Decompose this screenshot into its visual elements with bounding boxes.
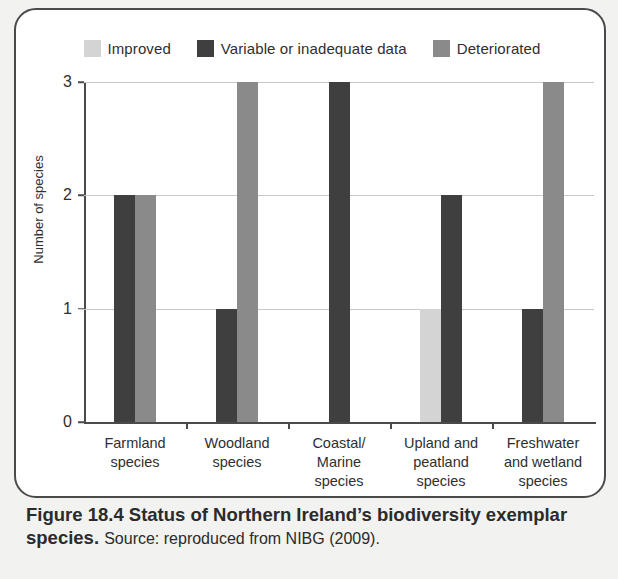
x-axis-label-line: Marine <box>288 453 390 472</box>
y-tick-label: 0 <box>50 413 72 431</box>
x-tick-mark <box>492 422 494 429</box>
y-tick-label: 1 <box>50 300 72 318</box>
bar <box>216 309 237 422</box>
figure-caption: Figure 18.4 Status of Northern Ireland’s… <box>26 503 604 550</box>
x-axis-label: Woodlandspecies <box>186 434 288 491</box>
bar <box>329 82 350 422</box>
x-tick-mark <box>288 422 290 429</box>
bar-group <box>186 82 288 422</box>
bar <box>543 82 564 422</box>
bar <box>135 195 156 422</box>
bar-group <box>288 82 390 422</box>
x-tick-mark <box>390 422 392 429</box>
x-axis-label-line: Woodland <box>186 434 288 453</box>
y-axis-title: Number of species <box>31 130 46 290</box>
plot-wrapper: Number of species 0123 FarmlandspeciesWo… <box>16 10 606 498</box>
x-axis-labels: FarmlandspeciesWoodlandspeciesCoastal/Ma… <box>84 434 594 491</box>
bar <box>420 309 441 422</box>
bar-group-bars <box>84 82 186 422</box>
x-axis-label-line: species <box>390 472 492 491</box>
x-axis-label-line: Freshwater <box>492 434 594 453</box>
bar-group <box>390 82 492 422</box>
x-axis-label: Farmlandspecies <box>84 434 186 491</box>
x-axis-label-line: and wetland <box>492 453 594 472</box>
x-axis-label-line: species <box>492 472 594 491</box>
x-axis-label: Upland andpeatlandspecies <box>390 434 492 491</box>
bar <box>237 82 258 422</box>
bar <box>441 195 462 422</box>
bar-group-bars <box>492 82 594 422</box>
x-axis-label: Coastal/Marinespecies <box>288 434 390 491</box>
x-axis-label: Freshwaterand wetlandspecies <box>492 434 594 491</box>
bar-groups <box>84 82 594 422</box>
y-tick-label: 3 <box>50 73 72 91</box>
x-tick-mark <box>186 422 188 429</box>
bar-group <box>492 82 594 422</box>
x-axis-label-line: species <box>186 453 288 472</box>
x-axis-label-line: species <box>288 472 390 491</box>
x-axis-label-line: species <box>84 453 186 472</box>
plot-area <box>84 82 594 422</box>
x-axis-label-line: Coastal/ <box>288 434 390 453</box>
caption-source: Source: reproduced from NIBG (2009). <box>104 530 380 547</box>
bar-group-bars <box>288 82 390 422</box>
bar-group-bars <box>186 82 288 422</box>
bar <box>522 309 543 422</box>
bar-group <box>84 82 186 422</box>
x-axis-label-line: Farmland <box>84 434 186 453</box>
y-tick-label: 2 <box>50 186 72 204</box>
figure-root: Improved Variable or inadequate data Det… <box>0 0 618 579</box>
x-axis-label-line: Upland and <box>390 434 492 453</box>
x-axis-line <box>84 422 596 424</box>
x-axis-label-line: peatland <box>390 453 492 472</box>
bar <box>114 195 135 422</box>
chart-frame: Improved Variable or inadequate data Det… <box>14 8 606 498</box>
bar-group-bars <box>390 82 492 422</box>
